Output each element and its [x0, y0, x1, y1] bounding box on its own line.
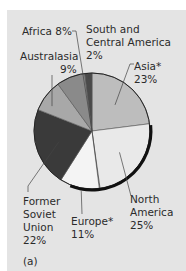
label-asia-2: 23% — [134, 73, 157, 85]
leader-europe — [81, 191, 82, 214]
panel-label: (a) — [23, 255, 38, 267]
label-south-central-america-3: 2% — [86, 49, 103, 61]
label-fsu-3: Union — [23, 221, 53, 233]
label-north-america-3: 25% — [130, 219, 153, 231]
label-fsu-2: Soviet — [23, 208, 56, 220]
label-africa: Africa 8% — [22, 25, 72, 37]
label-south-central-america-2: Central America — [86, 36, 171, 48]
label-asia-1: Asia* — [134, 60, 161, 72]
label-europe-2: 11% — [71, 228, 94, 240]
label-australasia-2: 9% — [60, 63, 77, 75]
label-australasia-1: Australasia — [20, 50, 78, 62]
label-fsu-1: Former — [23, 195, 60, 207]
pie-slice-north-america — [92, 124, 150, 189]
label-south-central-america-1: South and — [86, 23, 140, 35]
label-north-america-2: America — [130, 206, 173, 218]
label-north-america-1: North — [130, 193, 159, 205]
label-fsu-4: 22% — [23, 234, 46, 246]
label-europe-1: Europe* — [71, 215, 113, 227]
